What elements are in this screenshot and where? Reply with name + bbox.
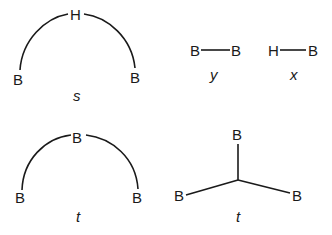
atom-b-left: B bbox=[15, 189, 25, 206]
atom-b-top: B bbox=[72, 129, 82, 146]
diagram-label-s: s bbox=[73, 87, 81, 104]
atom-b-left: B bbox=[174, 187, 184, 204]
bonding-diagrams: H B B s B B y H B x B B B t B B B t bbox=[0, 0, 332, 235]
atom-b-right: B bbox=[231, 42, 241, 59]
atom-b-right: B bbox=[292, 187, 302, 204]
diagram-x: H B x bbox=[268, 42, 318, 83]
diagram-label-x: x bbox=[289, 66, 298, 83]
arc-bond-right bbox=[86, 135, 138, 189]
atom-h: H bbox=[268, 42, 279, 59]
atom-h: H bbox=[70, 6, 81, 23]
atom-b-right: B bbox=[130, 69, 140, 86]
diagram-s: H B B s bbox=[13, 6, 140, 104]
atom-b-left: B bbox=[13, 71, 23, 88]
arc-bond-left bbox=[20, 14, 68, 70]
diagram-t-closed: B B B t bbox=[174, 126, 302, 225]
atom-b: B bbox=[308, 42, 318, 59]
diagram-label-t: t bbox=[76, 208, 81, 225]
arc-bond-right bbox=[84, 14, 135, 68]
diagram-label-y: y bbox=[209, 66, 219, 83]
diagram-y: B B y bbox=[190, 42, 241, 83]
atom-b-left: B bbox=[190, 42, 200, 59]
arc-bond-left bbox=[22, 135, 71, 190]
atom-b-top: B bbox=[232, 126, 242, 143]
diagram-label-t: t bbox=[236, 208, 241, 225]
bond-left bbox=[186, 180, 238, 195]
diagram-t-open: B B B t bbox=[15, 129, 142, 225]
atom-b-right: B bbox=[132, 189, 142, 206]
bond-right bbox=[238, 180, 290, 193]
